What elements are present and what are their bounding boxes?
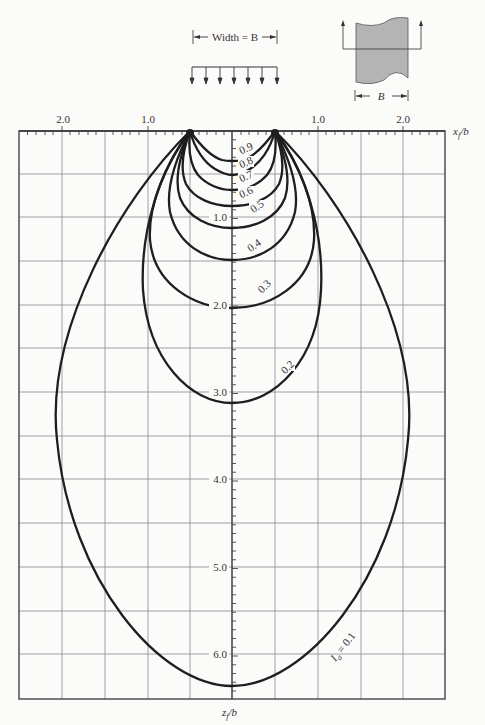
section-width-label: B (378, 90, 385, 102)
load-arrows-icon (190, 67, 279, 84)
x-tick-label: 1.0 (141, 113, 155, 125)
arrow-up-icon (341, 20, 345, 26)
z-axis-ticks (232, 140, 238, 691)
isobar-diagram: Width = B B (0, 0, 485, 725)
isobar-main-label: Iσ = 0.1 (327, 630, 360, 666)
footing-section-sketch: B (341, 18, 423, 102)
z-tick-label: 5.0 (213, 561, 227, 573)
strip-load-sketch: Width = B (190, 30, 279, 84)
z-tick-labels: 1.0 2.0 3.0 4.0 5.0 6.0 (209, 211, 229, 660)
x-tick-label: 2.0 (56, 113, 70, 125)
footing-corner-left (186, 129, 194, 137)
x-axis-title: xf/b (452, 125, 469, 140)
width-label: Width = B (212, 31, 258, 43)
footing-section-shape (356, 18, 408, 84)
z-axis-title: zf/b (221, 706, 238, 721)
x-tick-label: 1.0 (311, 113, 325, 125)
z-tick-label: 4.0 (213, 473, 227, 485)
arrow-up-icon (419, 20, 423, 26)
footing-corner-right (271, 129, 279, 137)
z-tick-label: 2.0 (213, 299, 227, 311)
isobar-labels: 0.9 0.8 0.7 0.6 0.5 0.4 0.3 0.2 Iσ = 0.1 (237, 139, 360, 665)
z-tick-label: 3.0 (213, 386, 227, 398)
isobar-label: 0.3 (255, 277, 274, 296)
x-tick-label: 2.0 (396, 113, 410, 125)
z-tick-label: 1.0 (213, 211, 227, 223)
z-tick-label: 6.0 (213, 648, 227, 660)
isobar-label: 0.4 (245, 236, 264, 254)
